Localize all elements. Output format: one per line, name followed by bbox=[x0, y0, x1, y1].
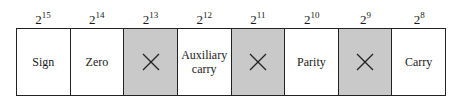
cross-icon bbox=[356, 53, 374, 71]
bit-weight-10: 210 bbox=[285, 6, 339, 26]
base: 2 bbox=[35, 12, 42, 27]
base: 2 bbox=[250, 12, 257, 27]
flag-cell-unused-11 bbox=[232, 29, 286, 95]
exponent: 11 bbox=[257, 10, 266, 20]
flag-cell-parity: Parity bbox=[285, 29, 339, 95]
bit-weight-8: 28 bbox=[392, 6, 446, 26]
flag-cell-unused-13 bbox=[124, 29, 178, 95]
bit-weight-9: 29 bbox=[339, 6, 393, 26]
bit-weight-12: 212 bbox=[177, 6, 231, 26]
exponent: 8 bbox=[420, 10, 425, 20]
bit-weight-13: 213 bbox=[124, 6, 178, 26]
exponent: 15 bbox=[42, 10, 51, 20]
base: 2 bbox=[196, 12, 203, 27]
flag-cell-zero: Zero bbox=[71, 29, 125, 95]
flag-label-line2: carry bbox=[192, 62, 217, 76]
flag-cell-sign: Sign bbox=[17, 29, 71, 95]
flag-register: Sign Zero Auxiliarycarry Parity Carry bbox=[16, 28, 446, 96]
exponent: 14 bbox=[95, 10, 104, 20]
flag-cell-unused-9 bbox=[339, 29, 393, 95]
flag-label: Zero bbox=[86, 55, 109, 69]
cross-icon bbox=[249, 53, 267, 71]
cross-icon bbox=[142, 53, 160, 71]
flag-label: Auxiliarycarry bbox=[181, 48, 227, 76]
flag-cell-carry: Carry bbox=[392, 29, 445, 95]
exponent: 12 bbox=[203, 10, 212, 20]
exponent: 10 bbox=[310, 10, 319, 20]
bit-weight-11: 211 bbox=[231, 6, 285, 26]
exponent: 9 bbox=[366, 10, 371, 20]
flag-label: Sign bbox=[32, 55, 54, 69]
bit-weight-15: 215 bbox=[16, 6, 70, 26]
bit-weight-labels: 215 214 213 212 211 210 29 28 bbox=[16, 6, 446, 26]
bit-weight-14: 214 bbox=[70, 6, 124, 26]
flag-label: Carry bbox=[405, 55, 432, 69]
exponent: 13 bbox=[149, 10, 158, 20]
flag-cell-auxiliary-carry: Auxiliarycarry bbox=[178, 29, 232, 95]
flag-label: Parity bbox=[297, 55, 326, 69]
flag-label-line1: Auxiliary bbox=[181, 48, 227, 62]
